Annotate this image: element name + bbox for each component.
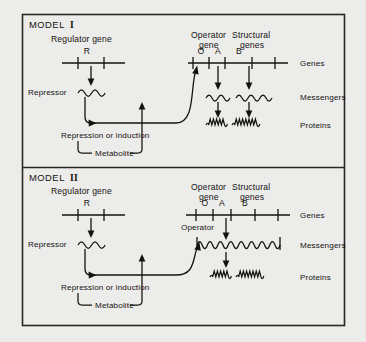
model-2-feedback-label: Repression or induction [61, 283, 149, 292]
model-2-operator-messenger-label: Operator [181, 223, 214, 232]
model-1-row-label-genes: Genes [300, 59, 325, 68]
model-2-protein-1 [210, 271, 231, 279]
model-1-messenger-1 [206, 95, 230, 101]
model-1-gene-line [188, 57, 288, 69]
figure-border [23, 15, 345, 326]
model-1-title-numeral: I [70, 19, 74, 30]
diagram-canvas: MODEL I Regulator gene Operator gene Str… [0, 0, 366, 342]
model-2-metabolite-label: Metabolite [95, 301, 134, 310]
model-1-repressor-feedback-path [85, 97, 97, 127]
model-1-regulator-title: Regulator gene [51, 34, 112, 44]
model-1-operator-title-line1: Operator [191, 30, 226, 40]
model-2-repressor-feedback-path [85, 249, 97, 279]
model-1-gene-marker-B: B [236, 46, 242, 56]
model-1-metabolite-label: Metabolite [95, 149, 134, 158]
model-2-gene-marker-O: O [202, 198, 209, 208]
model-1-regulator-gene-line [62, 57, 125, 69]
model-2-gene-line [186, 209, 290, 221]
model-1-arrow-regulator-to-repressor [88, 66, 95, 86]
model-1-repressor-label: Repressor [28, 88, 67, 97]
model-2-arrow-gene-to-messenger [223, 218, 230, 240]
model-2-arrow-messenger-to-protein [223, 252, 230, 268]
model-1-arrow-bus-to-operator [176, 66, 199, 124]
model-1-arrow-messenger1-to-protein [215, 102, 222, 118]
model-1-protein-1 [206, 119, 227, 127]
model-2-title-numeral: II [70, 172, 78, 183]
model-1-row-label-proteins: Proteins [300, 121, 331, 130]
model-2-protein-2 [236, 271, 264, 279]
model-2-regulator-gene-line [62, 209, 125, 221]
model-1-row-label-messengers: Messengers [300, 93, 346, 102]
model-2-regulator-marker: R [84, 198, 90, 208]
operon-model-figure: MODEL I Regulator gene Operator gene Str… [0, 0, 366, 342]
model-2-messenger-polycistronic [197, 237, 280, 250]
model-2-repressor-molecule [78, 242, 105, 249]
model-1-structural-title-line1: Structural [232, 30, 270, 40]
model-1-protein-2 [232, 119, 260, 127]
model-2-title-prefix: MODEL [29, 172, 65, 183]
model-2-row-label-proteins: Proteins [300, 273, 331, 282]
model-1-arrow-messenger2-to-protein [246, 102, 253, 118]
model-1-gene-marker-O: O [198, 46, 205, 56]
model-2-gene-marker-B: B [242, 198, 248, 208]
model-1-messenger-2 [236, 95, 272, 101]
model-2-gene-marker-A: A [219, 198, 225, 208]
model-1-structural-title-line2: genes [240, 40, 264, 50]
model-2-row-label-messengers: Messengers [300, 241, 346, 250]
model-2-operator-title-line1: Operator [191, 182, 226, 192]
model-1-feedback-label: Repression or induction [61, 131, 149, 140]
model-2-regulator-title: Regulator gene [51, 186, 112, 196]
model-1-repressor-molecule [78, 90, 105, 97]
model-1-arrow-geneA-to-messenger [215, 66, 222, 90]
panel-model-2: MODEL II Regulator gene Operator gene St… [28, 172, 346, 310]
model-1-title-prefix: MODEL [29, 19, 65, 30]
model-1-regulator-marker: R [84, 46, 90, 56]
model-1-arrow-geneB-to-messenger [246, 66, 253, 90]
model-2-repressor-label: Repressor [28, 240, 67, 249]
model-2-row-label-genes: Genes [300, 211, 325, 220]
model-2-structural-title-line1: Structural [232, 182, 270, 192]
model-1-gene-marker-A: A [215, 46, 221, 56]
panel-model-1: MODEL I Regulator gene Operator gene Str… [28, 19, 346, 158]
model-2-arrow-regulator-to-repressor [88, 218, 95, 238]
